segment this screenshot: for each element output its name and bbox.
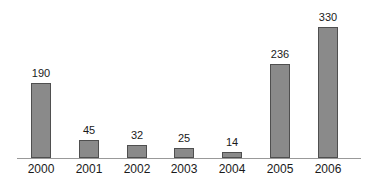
bar-value-label: 32	[117, 129, 157, 141]
x-tick-label: 2003	[160, 163, 208, 176]
bar	[79, 140, 99, 158]
bar	[318, 27, 338, 158]
bar-value-label: 190	[21, 67, 61, 79]
bar-chart-figure: 19045322514236330 2000200120022003200420…	[0, 0, 378, 188]
bar-value-label: 45	[69, 124, 109, 136]
x-tick-label: 2005	[256, 163, 304, 176]
bar-value-label: 236	[260, 48, 300, 60]
bar	[174, 148, 194, 158]
bar	[127, 145, 147, 158]
x-tick-label: 2000	[17, 163, 65, 176]
bar-value-label: 330	[308, 11, 348, 23]
bar-value-label: 25	[164, 132, 204, 144]
bar	[31, 83, 51, 158]
x-tick-label: 2002	[113, 163, 161, 176]
x-tick-label: 2001	[65, 163, 113, 176]
bar	[270, 64, 290, 158]
bar-value-label: 14	[212, 136, 252, 148]
x-axis-line	[17, 158, 361, 159]
x-tick-label: 2006	[304, 163, 352, 176]
x-tick-label: 2004	[208, 163, 256, 176]
